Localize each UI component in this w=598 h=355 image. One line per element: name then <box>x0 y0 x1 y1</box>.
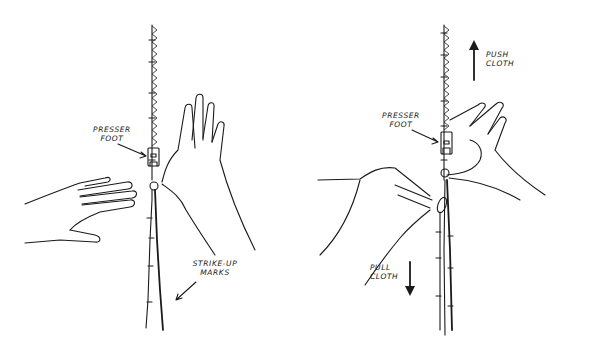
label-line: Foot <box>82 134 142 143</box>
label-strike-up-marks: Strike-up Marks <box>182 259 248 277</box>
sewing-illustration: Presser Foot Strike-up Marks Presser Foo… <box>0 0 598 355</box>
label-line: Foot <box>370 120 432 129</box>
thumb-tip <box>150 182 158 190</box>
pinched-fabric <box>436 196 449 214</box>
left-figure <box>25 25 255 330</box>
label-pull-cloth: Pull Cloth <box>370 263 410 281</box>
presser-foot-icon <box>441 132 452 154</box>
zigzag-stitch-icon <box>152 26 157 146</box>
presser-foot-icon <box>148 148 159 166</box>
right-hand-icon <box>162 94 255 255</box>
fabric-edge-3 <box>444 180 445 335</box>
label-line: Marks <box>182 268 248 277</box>
label-line: Presser <box>82 125 142 134</box>
label-line: Pull <box>370 263 410 272</box>
push-arrow-icon <box>469 40 479 80</box>
right-figure <box>318 25 545 335</box>
label-presser-foot-right: Presser Foot <box>370 111 432 129</box>
thumb-tip <box>441 169 449 177</box>
label-line: Cloth <box>486 59 526 68</box>
right-hand-icon <box>447 102 545 200</box>
label-line: Push <box>486 50 526 59</box>
label-line: Cloth <box>370 272 410 281</box>
left-hand-icon <box>25 177 137 243</box>
label-push-cloth: Push Cloth <box>486 50 526 68</box>
presser-foot-pointer <box>412 130 438 144</box>
label-presser-foot-left: Presser Foot <box>82 125 142 143</box>
fabric-edge-2 <box>447 180 452 330</box>
label-line: Strike-up <box>182 259 248 268</box>
label-line: Presser <box>370 111 432 120</box>
presser-foot-pointer <box>118 144 146 158</box>
fabric-edge <box>146 190 152 328</box>
fabric-edge-2 <box>155 190 163 330</box>
zigzag-stitch-icon <box>444 26 449 130</box>
strike-marks-pointer <box>176 282 196 300</box>
